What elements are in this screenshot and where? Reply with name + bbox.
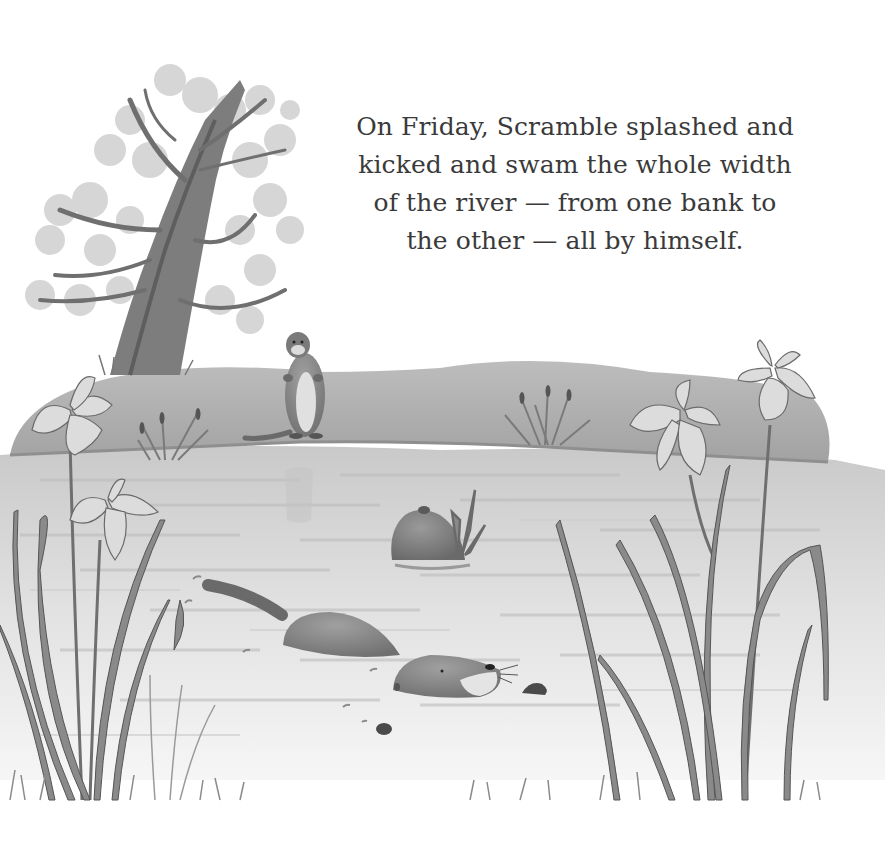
story-line-4: the other — all by himself. bbox=[350, 222, 800, 260]
storybook-page: On Friday, Scramble splashed and kicked … bbox=[0, 0, 885, 863]
story-line-3: of the river — from one bank to bbox=[350, 184, 800, 222]
tree-on-far-bank bbox=[25, 64, 304, 375]
frog bbox=[418, 506, 430, 514]
story-line-2: kicked and swam the whole width bbox=[350, 146, 800, 184]
story-text: On Friday, Scramble splashed and kicked … bbox=[350, 108, 800, 260]
story-line-1: On Friday, Scramble splashed and bbox=[350, 108, 800, 146]
